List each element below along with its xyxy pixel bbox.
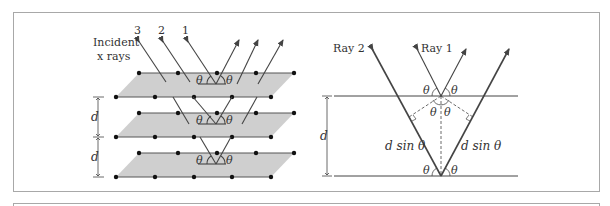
ray-2-label: Ray 2 bbox=[333, 42, 365, 55]
theta-label: θ bbox=[226, 154, 233, 167]
theta-label: θ bbox=[430, 106, 437, 119]
lattice-plane-3 bbox=[116, 153, 294, 177]
lattice-plane-2 bbox=[116, 113, 294, 137]
spacing-d-label: d bbox=[91, 150, 99, 164]
spacing-dimension-left bbox=[93, 97, 104, 177]
theta-label: θ bbox=[196, 154, 203, 167]
ray-1-label: Ray 1 bbox=[421, 42, 453, 55]
path-length-right-label: d sin θ bbox=[461, 139, 502, 153]
angle-labels-right: θ θ θ θ θ θ bbox=[423, 84, 458, 177]
theta-label: θ bbox=[226, 74, 233, 87]
theta-label: θ bbox=[196, 114, 203, 127]
theta-label: θ bbox=[444, 106, 451, 119]
theta-label: θ bbox=[451, 164, 458, 177]
theta-label: θ bbox=[451, 84, 458, 97]
path-length-left-label: d sin θ bbox=[385, 139, 426, 153]
lattice-plane-1 bbox=[116, 73, 294, 97]
bragg-diffraction-figure: θ θ θ θ θ θ 3 2 1 Incident x rays d d bbox=[0, 0, 610, 206]
x-rays bbox=[138, 40, 283, 164]
x-rays-label: x rays bbox=[97, 50, 131, 63]
crystal-lattice bbox=[114, 71, 296, 179]
theta-label: θ bbox=[196, 74, 203, 87]
theta-label: θ bbox=[423, 164, 430, 177]
ray-number-1: 1 bbox=[182, 24, 189, 37]
ray-number-2: 2 bbox=[158, 24, 165, 37]
incident-label: Incident bbox=[93, 36, 140, 49]
theta-label: θ bbox=[226, 114, 233, 127]
path-difference-geometry bbox=[322, 45, 518, 176]
theta-label: θ bbox=[423, 84, 430, 97]
spacing-d-label: d bbox=[320, 129, 328, 143]
spacing-d-label: d bbox=[91, 110, 99, 124]
